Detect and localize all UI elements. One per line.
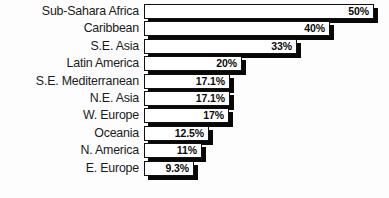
- bar-row: N.E. Asia 17.1%: [0, 91, 389, 108]
- bar-latin-america[interactable]: 20%: [144, 56, 242, 71]
- category-label-caribbean: Caribbean: [0, 21, 144, 36]
- bar-value-label: 17.1%: [196, 76, 229, 87]
- bar-w-europe[interactable]: 17%: [144, 108, 229, 123]
- bar-row: Oceania 12.5%: [0, 126, 389, 143]
- bar-value-label: 17.1%: [196, 93, 229, 104]
- bar-n-america[interactable]: 11%: [144, 143, 202, 158]
- bar-track: 12.5%: [144, 126, 389, 143]
- category-label-sub-sahara-africa: Sub-Sahara Africa: [0, 4, 144, 19]
- bar-track: 17.1%: [144, 74, 389, 91]
- bar-track: 20%: [144, 56, 389, 73]
- category-label-se-asia: S.E. Asia: [0, 39, 144, 54]
- bar-rows-container: Sub-Sahara Africa 50% Caribbean 40% S.E.…: [0, 4, 389, 178]
- category-label-w-europe: W. Europe: [0, 108, 144, 123]
- bar-sub-sahara-africa[interactable]: 50%: [144, 4, 374, 19]
- bar-se-mediterranean[interactable]: 17.1%: [144, 74, 230, 89]
- bar-track: 33%: [144, 39, 389, 56]
- bar-value-label: 20%: [216, 58, 241, 69]
- bar-row: Latin America 20%: [0, 56, 389, 73]
- category-label-n-america: N. America: [0, 143, 144, 158]
- bar-row: W. Europe 17%: [0, 108, 389, 125]
- bar-value-label: 40%: [304, 23, 329, 34]
- bar-value-label: 11%: [177, 145, 201, 156]
- bar-value-label: 9.3%: [165, 163, 193, 174]
- bar-row: E. Europe 9.3%: [0, 161, 389, 178]
- bar-track: 11%: [144, 143, 389, 160]
- bar-value-label: 33%: [271, 41, 296, 52]
- bar-track: 17.1%: [144, 91, 389, 108]
- bar-track: 17%: [144, 108, 389, 125]
- category-label-latin-america: Latin America: [0, 56, 144, 71]
- bar-track: 40%: [144, 21, 389, 38]
- category-label-oceania: Oceania: [0, 126, 144, 141]
- bar-se-asia[interactable]: 33%: [144, 39, 297, 54]
- bar-value-label: 12.5%: [175, 128, 208, 139]
- category-label-e-europe: E. Europe: [0, 161, 144, 176]
- bar-row: Caribbean 40%: [0, 21, 389, 38]
- bar-value-label: 17%: [203, 110, 228, 121]
- bar-row: Sub-Sahara Africa 50%: [0, 4, 389, 21]
- bar-track: 9.3%: [144, 161, 389, 178]
- category-label-se-mediterranean: S.E. Mediterranean: [0, 74, 144, 89]
- category-label-ne-asia: N.E. Asia: [0, 91, 144, 106]
- bar-row: N. America 11%: [0, 143, 389, 160]
- bar-track: 50%: [144, 4, 389, 21]
- bar-e-europe[interactable]: 9.3%: [144, 161, 194, 176]
- bar-caribbean[interactable]: 40%: [144, 21, 330, 36]
- bar-value-label: 50%: [348, 6, 373, 17]
- bar-ne-asia[interactable]: 17.1%: [144, 91, 230, 106]
- bar-oceania[interactable]: 12.5%: [144, 126, 209, 141]
- bar-row: S.E. Mediterranean 17.1%: [0, 74, 389, 91]
- horizontal-bar-chart: Sub-Sahara Africa 50% Caribbean 40% S.E.…: [0, 0, 389, 198]
- bar-row: S.E. Asia 33%: [0, 39, 389, 56]
